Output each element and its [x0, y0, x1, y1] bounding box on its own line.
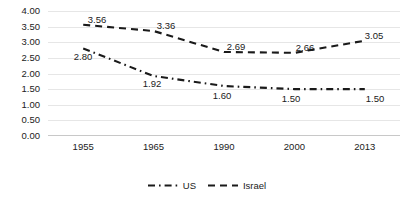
y-tick-label: 4.00 — [22, 6, 41, 16]
gridline-1-00 — [48, 105, 400, 106]
gridline-2-50 — [48, 58, 400, 59]
y-tick-label: 0.50 — [22, 115, 41, 125]
gridline-4-00 — [48, 11, 400, 12]
legend-swatch-dash-dot-icon — [148, 181, 178, 190]
gridline-3-00 — [48, 42, 400, 43]
line-chart: 4.00 3.50 3.00 2.50 2.00 1.50 1.00 0.50 … — [0, 0, 414, 201]
x-tick-label: 2013 — [354, 141, 375, 153]
legend-entry-israel[interactable]: Israel — [208, 180, 266, 191]
legend-label-israel: Israel — [243, 180, 266, 191]
data-label-israel: 2.69 — [227, 41, 246, 52]
gridline-3-50 — [48, 27, 400, 28]
data-label-israel: 3.36 — [157, 20, 176, 31]
y-tick-label: 2.00 — [22, 69, 41, 79]
data-label-us: 1.92 — [143, 78, 162, 89]
y-tick-label: 1.00 — [22, 100, 41, 110]
plot-area — [48, 11, 400, 136]
y-tick-label: 3.00 — [22, 37, 41, 47]
y-tick-label: 0.00 — [22, 131, 41, 141]
x-tick-label: 1955 — [73, 141, 94, 153]
x-axis-line — [48, 135, 400, 136]
y-tick-label: 2.50 — [22, 53, 41, 63]
gridline-2-00 — [48, 74, 400, 75]
data-label-us: 1.60 — [213, 90, 232, 101]
data-label-us: 2.80 — [74, 51, 93, 62]
x-tick-label: 1965 — [143, 141, 164, 153]
y-tick-label: 1.50 — [22, 84, 41, 94]
x-tick-label: 2000 — [284, 141, 305, 153]
y-tick-label: 3.50 — [22, 22, 41, 32]
data-label-israel: 3.05 — [365, 30, 384, 41]
legend-swatch-dashed-icon — [208, 181, 238, 190]
y-axis: 4.00 3.50 3.00 2.50 2.00 1.50 1.00 0.50 … — [0, 0, 44, 201]
gridline-0-50 — [48, 120, 400, 121]
x-axis: 1955 1965 1990 2000 2013 — [48, 141, 400, 157]
x-tick-label: 1990 — [213, 141, 234, 153]
chart-legend: US Israel — [0, 176, 414, 194]
legend-label-us: US — [183, 180, 196, 191]
data-label-israel: 3.56 — [88, 14, 107, 25]
data-label-us: 1.50 — [366, 93, 385, 104]
data-label-us: 1.50 — [282, 93, 301, 104]
legend-entry-us[interactable]: US — [148, 180, 196, 191]
data-label-israel: 2.66 — [296, 42, 315, 53]
